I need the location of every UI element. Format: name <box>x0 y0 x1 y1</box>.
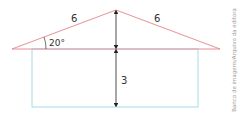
wall-rectangle <box>32 49 198 107</box>
image-credit: Banco de imagens/Arquivo da editora <box>229 4 239 116</box>
angle-label: 20° <box>49 38 65 48</box>
roof-right-length-label: 6 <box>154 13 160 24</box>
image-credit-text: Banco de imagens/Arquivo da editora <box>231 8 237 112</box>
wall-height-label: 3 <box>121 75 127 86</box>
roof-left-length-label: 6 <box>71 13 77 24</box>
angle-arc <box>44 37 46 49</box>
house-diagram: 6 6 20° 3 <box>0 0 241 119</box>
